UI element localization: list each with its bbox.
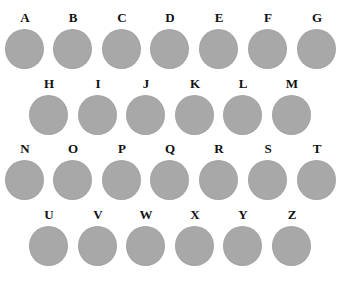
sample-label: O [53, 142, 93, 156]
sample-circle-icon [53, 29, 92, 69]
sample-label: S [248, 142, 288, 156]
sample-label: Y [223, 208, 263, 222]
sample-label: N [5, 142, 45, 156]
sample-circle-icon [175, 226, 214, 266]
sample-label: M [272, 77, 312, 91]
sample-label: D [150, 11, 190, 25]
sample-circle-icon [5, 160, 44, 200]
sample-label: Q [150, 142, 190, 156]
sample-label: T [297, 142, 337, 156]
sample-circle-icon [297, 29, 336, 69]
sample-circle-icon [126, 226, 165, 266]
sample-grid-figure: ABCDEFGHIJKLMNOPQRSTUVWXYZ [0, 0, 342, 286]
sample-label: K [175, 77, 215, 91]
sample-circle-icon [223, 226, 262, 266]
sample-circle-icon [102, 29, 141, 69]
sample-circle-icon [248, 160, 287, 200]
sample-label: G [297, 11, 337, 25]
sample-label: R [199, 142, 239, 156]
sample-circle-icon [78, 95, 117, 135]
sample-label: V [78, 208, 118, 222]
sample-circle-icon [199, 29, 238, 69]
sample-circle-icon [150, 29, 189, 69]
sample-label: C [102, 11, 142, 25]
sample-label: H [29, 77, 69, 91]
sample-circle-icon [248, 29, 287, 69]
sample-circle-icon [150, 160, 189, 200]
sample-circle-icon [175, 95, 214, 135]
sample-label: X [175, 208, 215, 222]
sample-circle-icon [78, 226, 117, 266]
sample-label: E [199, 11, 239, 25]
sample-circle-icon [5, 29, 44, 69]
sample-label: L [223, 77, 263, 91]
sample-circle-icon [223, 95, 262, 135]
sample-label: Z [272, 208, 312, 222]
sample-circle-icon [29, 95, 68, 135]
sample-circle-icon [102, 160, 141, 200]
sample-label: I [78, 77, 118, 91]
sample-circle-icon [272, 95, 311, 135]
sample-label: F [248, 11, 288, 25]
sample-label: J [126, 77, 166, 91]
sample-circle-icon [126, 95, 165, 135]
sample-label: A [5, 11, 45, 25]
sample-label: U [29, 208, 69, 222]
sample-label: W [126, 208, 166, 222]
sample-circle-icon [29, 226, 68, 266]
sample-circle-icon [53, 160, 92, 200]
sample-circle-icon [297, 160, 336, 200]
sample-circle-icon [199, 160, 238, 200]
sample-label: B [53, 11, 93, 25]
sample-label: P [102, 142, 142, 156]
sample-circle-icon [272, 226, 311, 266]
